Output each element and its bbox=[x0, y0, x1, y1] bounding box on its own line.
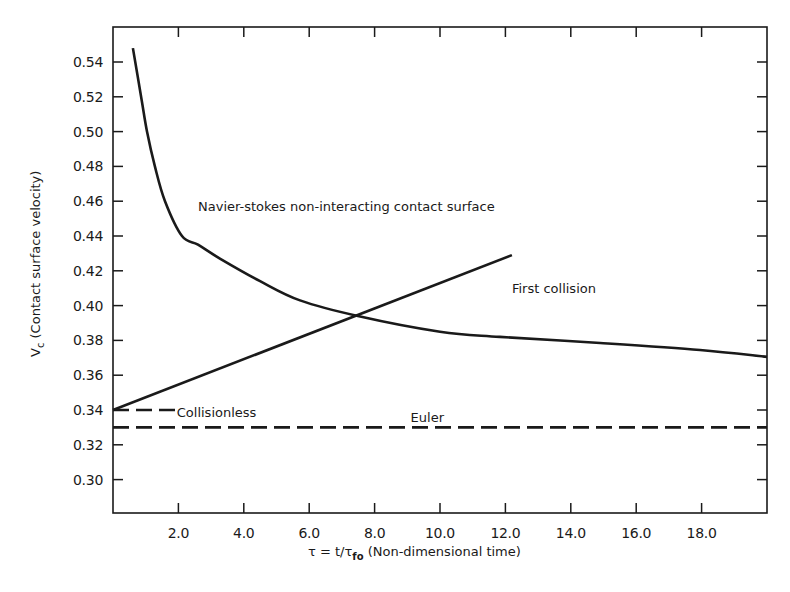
y-tick-label: 0.50 bbox=[73, 124, 103, 140]
y-tick-label: 0.38 bbox=[73, 332, 103, 348]
data-series bbox=[113, 48, 767, 427]
x-tick-label: 2.0 bbox=[168, 525, 189, 541]
x-tick-label: 4.0 bbox=[233, 525, 254, 541]
annotation-first-collision: First collision bbox=[512, 281, 596, 296]
y-tick-label: 0.36 bbox=[73, 367, 103, 383]
x-tick-label: 18.0 bbox=[687, 525, 717, 541]
annotation-euler: Euler bbox=[411, 410, 445, 425]
x-tick-label: 8.0 bbox=[364, 525, 385, 541]
chart: 2.04.06.08.010.012.014.016.018.0 0.300.3… bbox=[0, 0, 790, 592]
x-tick-label: 12.0 bbox=[490, 525, 520, 541]
x-tick-label: 16.0 bbox=[621, 525, 651, 541]
x-tick-label: 6.0 bbox=[299, 525, 320, 541]
y-tick-label: 0.48 bbox=[73, 158, 103, 174]
x-axis-ticks: 2.04.06.08.010.012.014.016.018.0 bbox=[168, 27, 717, 541]
y-tick-label: 0.42 bbox=[73, 263, 103, 279]
y-tick-label: 0.44 bbox=[73, 228, 103, 244]
y-tick-label: 0.34 bbox=[73, 402, 103, 418]
x-tick-label: 14.0 bbox=[556, 525, 586, 541]
annotation-navier-stokes-non-interacting-contact-surface: Navier-stokes non-interacting contact su… bbox=[198, 199, 495, 214]
plot-frame bbox=[113, 27, 767, 513]
y-tick-label: 0.54 bbox=[73, 54, 103, 70]
y-tick-label: 0.40 bbox=[73, 298, 103, 314]
y-tick-label: 0.32 bbox=[73, 437, 103, 453]
annotations: Navier-stokes non-interacting contact su… bbox=[177, 199, 596, 425]
y-tick-label: 0.52 bbox=[73, 89, 103, 105]
annotation-collisionless: Collisionless bbox=[177, 405, 257, 420]
y-axis-label: Vc (Contact surface velocity) bbox=[28, 171, 46, 357]
x-axis-label: τ = t/τfo (Non-dimensional time) bbox=[308, 544, 521, 562]
y-tick-label: 0.30 bbox=[73, 472, 103, 488]
x-tick-label: 10.0 bbox=[425, 525, 455, 541]
y-tick-label: 0.46 bbox=[73, 193, 103, 209]
